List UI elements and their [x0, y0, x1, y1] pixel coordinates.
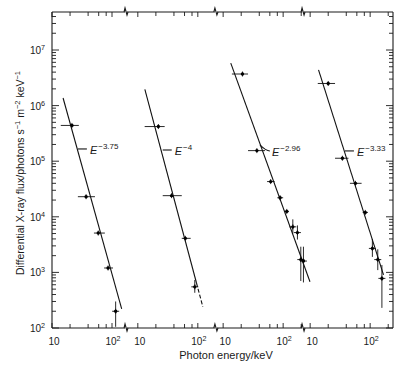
y-tick-label: 105: [30, 154, 45, 167]
x-tick-label: 102: [277, 334, 292, 347]
point-marker: [157, 125, 160, 128]
tick-label-base: 10: [30, 101, 42, 112]
x-axis-title: Photon energy/keV: [179, 349, 273, 361]
data-point: [294, 225, 301, 239]
x-tick-label: 10: [307, 336, 319, 347]
y-axis-title: Differential X-ray flux/photons s−1 m−2 …: [13, 71, 26, 275]
tick-label-base: 10: [30, 156, 42, 167]
tick-label-base: 10: [134, 336, 146, 347]
tick-label-exponent: 4: [41, 210, 45, 219]
tick-label-base: 10: [30, 323, 42, 334]
x-tick-label: 10: [220, 336, 232, 347]
power-law-exponent: −3.75: [98, 142, 119, 151]
tick-label-exponent: 2: [202, 334, 206, 343]
axis-ticks: [52, 12, 393, 328]
tick-label-base: 10: [105, 336, 117, 347]
power-law-label-2: E−4: [175, 143, 193, 157]
power-law-exponent: −3.33: [365, 144, 386, 153]
point-marker: [291, 225, 294, 228]
y-tick-label: 104: [30, 210, 45, 223]
tick-label-exponent: 7: [41, 43, 45, 52]
power-law-fit-lines: [63, 63, 383, 309]
point-marker: [255, 149, 258, 152]
point-marker: [241, 72, 244, 75]
fit-line-4: [319, 70, 384, 275]
point-marker: [371, 247, 374, 250]
data-points: [61, 72, 386, 327]
point-marker: [341, 157, 344, 160]
point-marker: [327, 82, 330, 85]
y-title-exponent: −1: [13, 121, 22, 130]
data-point: [94, 231, 105, 236]
power-law-exponent: −4: [183, 143, 193, 152]
tick-label-exponent: 2: [41, 321, 45, 330]
power-law-base: E: [90, 144, 98, 156]
fit-annotations: E−3.75E−4E−2.96E−3.33: [78, 142, 386, 158]
point-marker: [193, 285, 196, 288]
point-marker: [269, 180, 272, 183]
data-point: [104, 265, 113, 270]
y-tick-label: 106: [30, 99, 45, 112]
tick-label-base: 10: [220, 336, 232, 347]
tick-label-base: 10: [364, 336, 376, 347]
fit-line-1: [63, 98, 122, 309]
point-marker: [70, 124, 73, 127]
data-point: [112, 301, 119, 326]
point-marker: [106, 266, 109, 269]
power-law-exponent: −2.96: [280, 144, 301, 153]
tick-labels: 10102101021010210102102103104105106107: [30, 43, 379, 347]
y-title-text: Differential X-ray flux/photons s: [14, 129, 26, 275]
point-marker: [285, 210, 288, 213]
fit-line-2: [145, 89, 197, 283]
tick-label-base: 10: [30, 267, 42, 278]
point-marker: [364, 211, 367, 214]
data-point: [191, 280, 198, 293]
point-marker: [184, 237, 187, 240]
y-tick-label: 103: [30, 265, 45, 278]
tick-label-base: 10: [48, 336, 60, 347]
data-point: [350, 181, 362, 186]
axes-frame: [52, 8, 393, 331]
point-marker: [380, 277, 383, 280]
x-tick-label: 102: [364, 334, 379, 347]
data-point: [318, 81, 335, 86]
tick-label-exponent: 2: [288, 334, 292, 343]
tick-label-exponent: 2: [375, 334, 379, 343]
fit-line-3: [231, 63, 310, 282]
point-marker: [354, 182, 357, 185]
y-tick-label: 107: [30, 43, 45, 56]
y-tick-label: 102: [30, 321, 45, 334]
point-marker: [170, 194, 173, 197]
tick-label-exponent: 3: [41, 265, 45, 274]
power-law-base: E: [175, 145, 183, 157]
point-marker: [296, 231, 299, 234]
point-marker: [84, 195, 87, 198]
data-point: [378, 265, 385, 308]
tick-label-exponent: 2: [117, 334, 121, 343]
point-marker: [302, 259, 305, 262]
x-tick-label: 10: [48, 336, 60, 347]
power-law-label-4: E−3.33: [357, 144, 386, 158]
y-title-text: m: [14, 109, 26, 121]
y-title-exponent: −1: [13, 71, 22, 80]
power-law-label-1: E−3.75: [90, 142, 119, 156]
point-marker: [376, 258, 379, 261]
x-tick-label: 10: [134, 336, 146, 347]
point-marker: [278, 196, 281, 199]
data-point: [289, 219, 296, 233]
power-law-label-3: E−2.96: [272, 144, 301, 158]
x-tick-label: 102: [105, 334, 120, 347]
tick-label-base: 10: [307, 336, 319, 347]
data-point: [78, 194, 95, 199]
x-ray-spectra-chart: 10102101021010210102102103104105106107 E…: [0, 0, 402, 368]
tick-label-base: 10: [30, 212, 42, 223]
point-marker: [114, 310, 117, 313]
tick-label-base: 10: [277, 336, 289, 347]
y-title-text: keV: [14, 80, 26, 101]
power-law-base: E: [272, 146, 280, 158]
tick-label-base: 10: [30, 45, 42, 56]
power-law-base: E: [357, 146, 365, 158]
data-point: [277, 195, 283, 200]
tick-label-exponent: 6: [41, 99, 45, 108]
data-point: [182, 236, 191, 241]
